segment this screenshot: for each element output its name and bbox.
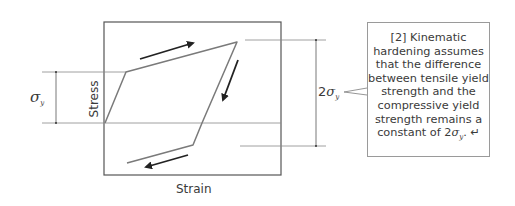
return-mark-icon: ↵ [470, 126, 479, 139]
two-sigma-y-label: 2σy [318, 84, 339, 101]
hysteresis-loop [105, 42, 237, 163]
sigma-y-label: σy [30, 88, 44, 107]
callout-note: [2] Kinematic hardening assumes that the… [367, 22, 490, 157]
plot-frame [104, 22, 281, 175]
arrow-down-left [223, 60, 238, 100]
y-axis-label: Stress [87, 81, 101, 118]
x-axis-label: Strain [176, 182, 212, 196]
callout-last-line: constant of 2σy. ↵ [368, 126, 489, 145]
callout-pointer [344, 88, 367, 95]
